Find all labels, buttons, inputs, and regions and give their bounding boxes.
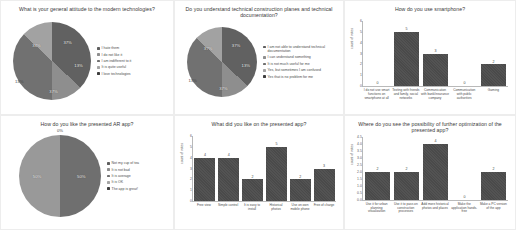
legend-item: Yes, but sometimes I am confused	[263, 68, 339, 72]
x-tick-label: Communication with bank/insurance compan…	[420, 88, 449, 115]
bar-chart-liked-on-app: count of votes 6 5 4 3 2 1 0 4 4 2 5 2 3	[179, 134, 339, 230]
bar-value: 3	[421, 49, 450, 53]
legend-swatch-icon	[263, 69, 266, 72]
x-tick-label: Texting with friends and family, social …	[391, 88, 420, 115]
chart-panel-understand-documentation: Do you understand technical construction…	[174, 0, 344, 115]
bar-item: 0	[450, 137, 479, 200]
legend-item: I love technologies	[97, 72, 169, 76]
legend-item: It is average	[107, 174, 169, 178]
legend-label: It is quite useful	[102, 65, 126, 69]
y-tick: 5	[190, 145, 192, 149]
x-tick-label: Historical photos	[264, 203, 288, 230]
pie-label-1: 13%	[74, 62, 82, 67]
bar-item: 2	[241, 136, 265, 201]
legend-label: I am indifferent to it	[102, 59, 132, 63]
y-tick: 3	[360, 52, 362, 56]
y-tick: 6	[360, 19, 362, 23]
pie-label-3: 13%	[188, 78, 196, 83]
bar-item: 3	[421, 21, 450, 86]
y-tick: 6	[190, 134, 192, 138]
plot-area: 6 5 4 3 2 1 0 4 4 2 5 2 3	[192, 136, 336, 202]
bar-item: 2	[479, 21, 508, 86]
x-tick-label: It is easy to install	[240, 203, 264, 230]
chart-panel-like-ar-app: How do you like the presented AR app? 0%…	[0, 115, 174, 230]
legend-label: I do not like it	[102, 53, 123, 57]
pie-graphic: 37% 13% 37% 13% 37%	[187, 27, 257, 97]
legend-swatch-icon	[107, 175, 110, 178]
legend-label: It is not much useful for me	[268, 62, 310, 66]
x-tick-label: Free of charge	[312, 203, 336, 230]
bar-value: 0	[450, 195, 479, 199]
plot-area: 6 5 4 3 2 1 0 0 5 3 0 2	[362, 21, 508, 87]
legend-label: Yes that is no problem for me	[268, 75, 313, 79]
legend-item: I do not like it	[97, 53, 169, 57]
y-tick: 4	[190, 156, 192, 160]
chart-legend: I hate them I do not like it I am indiff…	[97, 46, 169, 76]
bar-value: 5	[392, 27, 421, 31]
legend-swatch-icon	[107, 162, 110, 165]
y-tick: 4	[360, 41, 362, 45]
y-tick: 1.5	[357, 177, 362, 181]
legend-label: The app is great!	[112, 187, 138, 191]
y-tick: 0.5	[357, 191, 362, 195]
legend-item: Yes that is no problem for me	[263, 75, 339, 79]
pie-chart-like-ar-app: 0% 50% 50% Not my cup of tea It is not b…	[5, 134, 169, 218]
pie-label-2: 37%	[49, 88, 57, 93]
legend-item: I hate them	[97, 46, 169, 50]
legend-swatch-icon	[97, 66, 100, 69]
bar-value: 2	[363, 167, 392, 171]
bar-item: 5	[264, 136, 288, 201]
bar-item: 3	[312, 136, 336, 201]
pie-label-1: 13%	[242, 63, 250, 68]
y-axis-label: count of votes	[350, 28, 354, 49]
y-tick: 3.5	[357, 149, 362, 153]
legend-item: Not my cup of tea	[107, 161, 169, 165]
legend-swatch-icon	[97, 72, 100, 75]
pie-label-right: 50%	[77, 174, 85, 179]
legend-item: It is quite useful	[97, 65, 169, 69]
chart-legend: Not my cup of tea It is not bad It is av…	[107, 161, 169, 191]
legend-label: Yes, but sometimes I am confused	[268, 68, 321, 72]
bar-item: 2	[288, 136, 312, 201]
bar-value: 4	[217, 153, 241, 157]
pie-slices	[19, 135, 101, 217]
bar-series: 2 2 4 0 2	[363, 137, 508, 200]
pie-chart-understand-documentation: 37% 13% 37% 13% 37% I am not able to und…	[179, 20, 339, 104]
legend-swatch-icon	[107, 187, 110, 190]
legend-item: I can understand something	[263, 55, 339, 59]
bar-item: 0	[363, 21, 392, 86]
survey-results-figure: What is your general attitude to the mod…	[0, 0, 516, 230]
chart-panel-further-optimization: Where do you see the possibility of furt…	[344, 115, 516, 230]
y-axis-label: count of votes	[180, 143, 184, 164]
bar-chart-use-smartphone: count of votes 6 5 4 3 2 1 0 0 5 3 0 2 I…	[349, 19, 511, 115]
legend-label: Not my cup of tea	[112, 161, 139, 165]
bar-series: 4 4 2 5 2 3	[193, 136, 336, 201]
bar-series: 0 5 3 0 2	[363, 21, 508, 86]
x-tick-label: Use on own mobile phone	[288, 203, 312, 230]
bar-value: 2	[479, 60, 508, 64]
legend-swatch-icon	[263, 63, 266, 66]
bar-value: 5	[264, 142, 288, 146]
pie-chart-attitude-technologies: 37% 13% 37% 13% 37% I hate them I do not…	[5, 19, 169, 103]
y-axis-label: count of votes	[350, 144, 354, 165]
chart-title: What did you like on the presented app?	[185, 121, 333, 133]
x-tick-label: Make a PC version of the app	[479, 202, 508, 230]
bar-chart-further-optimization: count of votes 4.5 4.0 3.5 3.0 2.5 2.0 1…	[349, 135, 511, 230]
bar-value: 2	[392, 167, 421, 171]
y-tick: 2	[190, 177, 192, 181]
y-tick: 1.0	[357, 184, 362, 188]
x-tick-label: Make the application hands-free	[450, 202, 479, 230]
y-tick: 1	[360, 73, 362, 77]
bar-value: 0	[450, 81, 479, 85]
legend-swatch-icon	[263, 75, 266, 78]
legend-swatch-icon	[97, 60, 100, 63]
legend-label: It is OK	[112, 180, 123, 184]
x-tick-label: Add more historical photos and places	[420, 202, 449, 230]
chart-title: How do you like the presented AR app?	[11, 121, 163, 133]
legend-label: It is average	[112, 174, 131, 178]
x-axis-labels: Free view Simple control It is easy to i…	[192, 203, 336, 230]
legend-label: I can understand something	[268, 55, 311, 59]
pie-label-0: 37%	[232, 43, 240, 48]
y-tick: 4.0	[357, 142, 362, 146]
legend-swatch-icon	[97, 47, 100, 50]
